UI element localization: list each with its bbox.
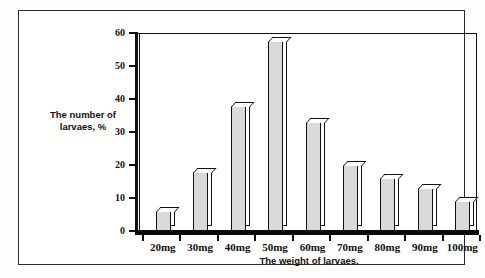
bar-side-face (208, 169, 212, 226)
y-axis-title-line-1: The number of (39, 109, 127, 121)
bar-side-face (433, 185, 437, 226)
bar-side-face (395, 175, 399, 226)
y-axis-tick (129, 98, 136, 100)
y-axis-tick-label-text: 0 (91, 226, 125, 236)
y-axis-tick-label-text: 10 (91, 193, 125, 203)
x-axis-title: The weight of larvaes. (159, 255, 459, 266)
y-axis-tick-label-text: 50 (91, 61, 125, 71)
bar-20mg (156, 211, 171, 231)
y-axis-tick-label: 20 (87, 160, 125, 170)
bar-top-face (156, 207, 180, 212)
y-axis-tick-label: 0 (87, 226, 125, 236)
bar-top-face (231, 102, 255, 107)
y-axis-tick-label: 30 (87, 127, 125, 137)
bar-50mg (268, 41, 283, 231)
bar-30mg (193, 172, 208, 231)
y-axis-tick-label-text: 60 (91, 28, 125, 38)
bar-40mg (231, 106, 246, 231)
y-axis-tick (129, 197, 136, 199)
y-axis-tick-label-text: 20 (91, 160, 125, 170)
y-axis-tick (129, 65, 136, 67)
y-axis-tick-label: 50 (87, 61, 125, 71)
bars-layer (140, 33, 477, 231)
y-axis-tick-label: 60 (87, 28, 125, 38)
x-axis-tick-label: 100mg (435, 241, 485, 253)
y-axis-tick (129, 230, 136, 232)
bar-top-face (455, 197, 479, 202)
y-axis-tick-label: 40 (87, 94, 125, 104)
bar-side-face (358, 162, 362, 226)
y-axis-tick (129, 164, 136, 166)
bar-top-face (193, 168, 217, 173)
bar-top-face (268, 37, 292, 42)
bar-side-face (321, 119, 325, 226)
bar-top-face (306, 118, 330, 123)
bar-90mg (418, 188, 433, 231)
y-axis-tick-label-text: 40 (91, 94, 125, 104)
bar-side-face (470, 198, 474, 226)
chart-figure: The number of larvaes, % 0102030405060 2… (0, 0, 485, 278)
x-axis-tick (479, 235, 481, 241)
y-axis-tick-label: 10 (87, 193, 125, 203)
y-axis-tick-label-text: 30 (91, 127, 125, 137)
bar-top-face (343, 161, 367, 166)
bar-80mg (380, 178, 395, 231)
bar-side-face (246, 103, 250, 226)
bar-60mg (306, 122, 321, 231)
bar-100mg (455, 201, 470, 231)
bar-top-face (418, 184, 442, 189)
bar-70mg (343, 165, 358, 231)
bar-side-face (283, 38, 287, 226)
y-axis-tick (129, 32, 136, 34)
figure-frame: The number of larvaes, % 0102030405060 2… (18, 10, 465, 265)
y-axis-tick (129, 131, 136, 133)
bar-top-face (380, 174, 404, 179)
